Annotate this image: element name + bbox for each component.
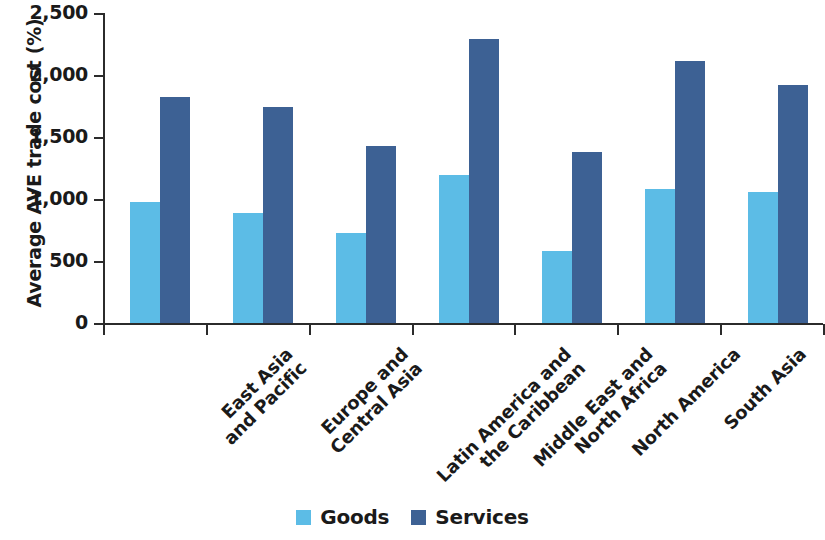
bar-goods bbox=[542, 251, 572, 323]
bar-services bbox=[469, 39, 499, 323]
x-axis-label: Europe andCentral Asia bbox=[313, 344, 427, 458]
bar-goods bbox=[645, 189, 675, 323]
y-axis-tick-label: 1,000 bbox=[29, 187, 88, 209]
y-axis-tick-label: 2,500 bbox=[29, 1, 88, 23]
x-axis-label: East Asiaand Pacific bbox=[206, 344, 311, 449]
x-axis-tick bbox=[412, 324, 414, 335]
plot-area: 05001,0001,5002,0002,500 East Asiaand Pa… bbox=[103, 13, 823, 323]
y-axis-tick: 2,500 bbox=[94, 13, 104, 15]
x-axis-tick bbox=[206, 324, 208, 335]
x-axis-line bbox=[103, 323, 823, 325]
legend-entry-goods[interactable]: Goods bbox=[296, 505, 389, 529]
bar-services bbox=[675, 61, 705, 323]
legend-swatch-services bbox=[411, 510, 426, 525]
legend-label: Goods bbox=[320, 505, 389, 529]
y-axis-tick-label: 500 bbox=[49, 249, 88, 271]
y-axis-tick: 1,000 bbox=[94, 199, 104, 201]
legend-entry-services[interactable]: Services bbox=[411, 505, 528, 529]
y-axis-tick: 1,500 bbox=[94, 137, 104, 139]
x-axis-tick bbox=[720, 324, 722, 335]
x-axis-tick bbox=[103, 324, 105, 335]
y-axis-tick-label: 2,000 bbox=[29, 63, 88, 85]
x-axis-tick bbox=[309, 324, 311, 335]
bar-goods bbox=[439, 175, 469, 323]
y-axis-title: Average AVE trade cost (%) bbox=[23, 8, 45, 318]
bar-group bbox=[130, 13, 190, 323]
bar-goods bbox=[748, 192, 778, 323]
y-axis-line bbox=[103, 13, 105, 324]
bar-group bbox=[439, 13, 499, 323]
bar-group bbox=[748, 13, 808, 323]
bar-group bbox=[336, 13, 396, 323]
bar-goods bbox=[233, 213, 263, 323]
bar-group bbox=[542, 13, 602, 323]
bar-services bbox=[160, 97, 190, 323]
bar-services bbox=[263, 107, 293, 323]
chart-legend: GoodsServices bbox=[0, 505, 825, 529]
bar-goods bbox=[336, 233, 366, 323]
bar-services bbox=[572, 152, 602, 323]
y-axis-tick: 500 bbox=[94, 261, 104, 263]
bar-goods bbox=[130, 202, 160, 323]
y-axis-tick-label: 1,500 bbox=[29, 125, 88, 147]
bar-chart-figure: Average AVE trade cost (%) 05001,0001,50… bbox=[0, 0, 825, 540]
bar-services bbox=[778, 85, 808, 323]
legend-label: Services bbox=[435, 505, 528, 529]
bar-group bbox=[645, 13, 705, 323]
legend-swatch-goods bbox=[296, 510, 311, 525]
bar-services bbox=[366, 146, 396, 323]
y-axis-tick-label: 0 bbox=[75, 311, 88, 333]
bar-group bbox=[233, 13, 293, 323]
y-axis-tick: 2,000 bbox=[94, 75, 104, 77]
x-axis-tick bbox=[617, 324, 619, 335]
x-axis-tick bbox=[514, 324, 516, 335]
